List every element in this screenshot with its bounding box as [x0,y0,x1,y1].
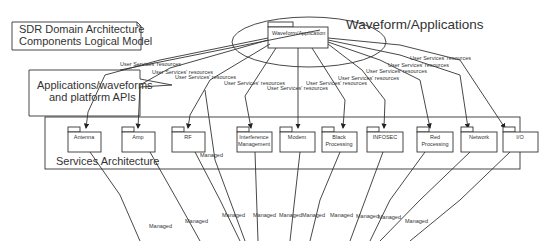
svg-text:Managed: Managed [405,218,428,224]
package-modem[interactable]: Modem [280,127,315,152]
package-infosec[interactable]: INFOSEC [367,127,403,152]
svg-text:Managed: Managed [279,212,302,218]
waveform-application-package[interactable]: Waveform/Application [268,22,328,48]
architecture-diagram: SDR Domain Architecture Components Logic… [0,0,556,241]
svg-text:Black: Black [332,134,346,140]
package-black-processing[interactable]: Black Processing [322,127,357,152]
model-title-note: SDR Domain Architecture Components Logic… [12,22,152,50]
svg-text:Managed: Managed [200,152,223,158]
svg-text:I/O: I/O [516,134,524,140]
svg-text:Managed: Managed [149,223,172,229]
package-antenna[interactable]: Antenna [68,127,101,152]
svg-text:Management: Management [238,141,271,147]
svg-text:User Services' resources: User Services' resources [410,55,471,61]
user-services-labels: User Services' resources User Services' … [120,55,471,91]
svg-text:Interference: Interference [239,134,268,140]
svg-text:User Services' resources: User Services' resources [388,62,449,68]
note-line-1: SDR Domain Architecture [19,23,144,35]
svg-text:Modem: Modem [288,134,307,140]
package-interference-management[interactable]: Interference Management [237,127,272,152]
svg-text:Network: Network [469,134,489,140]
services-title: Services Architecture [56,155,159,167]
svg-text:Red: Red [430,134,440,140]
package-amp[interactable]: Amp [122,127,155,152]
managed-labels: Managed Managed Managed Managed Managed … [149,152,428,229]
svg-text:User Services' resources: User Services' resources [366,68,427,74]
waveform-title: Waveform/Applications [346,17,484,32]
package-red-processing[interactable]: Red Processing [417,127,453,152]
note-line-2: Components Logical Model [19,35,152,47]
svg-text:Managed: Managed [253,212,276,218]
applications-callout: Applications/waveforms and platform APIs [29,70,172,116]
svg-text:RF: RF [184,134,192,140]
svg-text:Amp: Amp [132,134,143,140]
svg-text:User Services' resources: User Services' resources [120,61,181,67]
package-network[interactable]: Network [461,127,497,152]
package-io[interactable]: I/O [503,127,538,152]
package-rf[interactable]: RF [172,127,205,152]
svg-text:Managed: Managed [302,212,325,218]
svg-text:Processing: Processing [325,141,352,147]
svg-text:Managed: Managed [356,213,379,219]
svg-text:INFOSEC: INFOSEC [373,134,397,140]
svg-text:Managed: Managed [378,214,401,220]
svg-text:Managed: Managed [222,212,245,218]
callout-line-1: Applications/waveforms [37,79,153,91]
svg-text:Managed: Managed [330,212,353,218]
svg-text:Processing: Processing [421,141,448,147]
svg-text:Managed: Managed [185,218,208,224]
svg-text:User Services' resources: User Services' resources [338,75,399,81]
svg-text:Antenna: Antenna [74,134,95,140]
